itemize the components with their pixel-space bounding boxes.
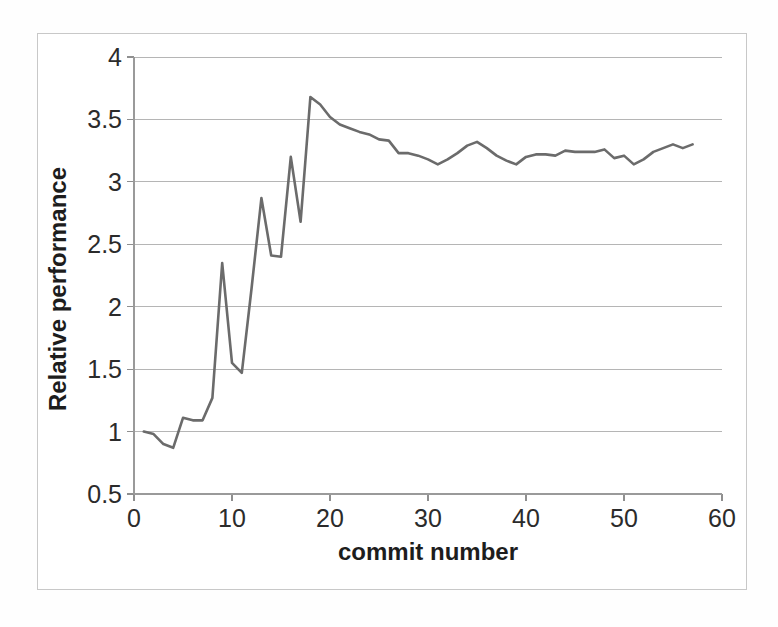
axis-ticks	[127, 57, 722, 501]
x-axis-title: commit number	[134, 538, 722, 566]
gridlines	[134, 57, 722, 432]
y-tick-label: 4	[60, 45, 122, 70]
chart-figure: 0.511.522.533.54 0102030405060 Relative …	[0, 0, 778, 627]
x-tick-label: 50	[610, 506, 638, 531]
data-series-line	[144, 97, 693, 448]
x-tick-label: 20	[316, 506, 344, 531]
x-tick-label: 0	[127, 506, 141, 531]
y-axis-title: Relative performance	[44, 124, 72, 454]
x-tick-label: 40	[512, 506, 540, 531]
x-tick-label: 10	[218, 506, 246, 531]
x-tick-label: 30	[414, 506, 442, 531]
x-tick-label: 60	[708, 506, 736, 531]
y-tick-label: 0.5	[60, 482, 122, 507]
